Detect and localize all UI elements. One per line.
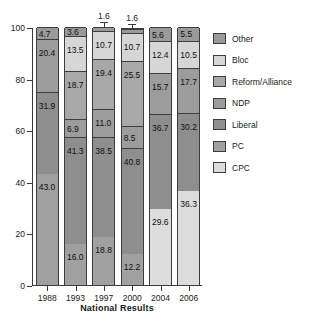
- x-axis-title: National Results: [32, 303, 202, 313]
- bar-segment-value-label: 18.7: [67, 81, 84, 90]
- bar-segment-2006-liberal: 30.2: [178, 113, 199, 191]
- y-axis-tick: [27, 131, 32, 132]
- bar-segment-1993-reform-alliance: 18.7: [65, 71, 86, 119]
- annotation-label-2000: 1.6: [126, 13, 138, 23]
- legend-label: Bloc: [232, 55, 249, 65]
- x-axis-tick-label: 2004: [151, 293, 170, 303]
- bar-segment-2004-bloc: 12.4: [150, 41, 171, 73]
- legend-item-bloc: Bloc: [213, 50, 307, 72]
- annotation-label-1997: 1.6: [98, 11, 110, 21]
- bar-segment-1997-liberal: 38.5: [93, 137, 114, 236]
- bar-segment-1993-pc: 16.0: [65, 244, 86, 285]
- bar-1993: 16.041.36.918.713.53.6: [64, 28, 87, 286]
- y-axis-tick: [27, 183, 32, 184]
- bar-segment-2004-cpc: 29.6: [150, 209, 171, 285]
- chart-legend: OtherBlocReform/AllianceNDPLiberalPCCPC: [213, 28, 307, 179]
- bar-segment-value-label: 16.0: [67, 253, 84, 262]
- bar-segment-value-label: 12.2: [124, 263, 141, 272]
- legend-item-ndp: NDP: [213, 93, 307, 115]
- y-axis-tick-label: 40: [16, 178, 25, 188]
- bar-segment-value-label: 25.5: [124, 71, 141, 80]
- bar-segment-2004-other: 5.6: [150, 27, 171, 41]
- bar-segment-2004-ndp: 15.7: [150, 73, 171, 114]
- bar-segment-value-label: 40.8: [124, 158, 141, 167]
- legend-label: Other: [232, 34, 253, 44]
- bar-segment-value-label: 43.0: [39, 183, 56, 192]
- legend-label: CPC: [232, 163, 250, 173]
- bar-segment-2000-other: [122, 29, 143, 33]
- bar-segment-2000-liberal: 40.8: [122, 148, 143, 253]
- x-axis-tick-label: 1997: [94, 293, 113, 303]
- bar-1997: 18.838.511.019.410.7: [92, 28, 115, 286]
- bar-segment-value-label: 12.4: [152, 51, 169, 60]
- bar-segment-value-label: 31.9: [39, 102, 56, 111]
- x-axis-tick: [161, 286, 162, 291]
- bar-segment-value-label: 41.3: [67, 147, 84, 156]
- bar-segment-value-label: 29.6: [152, 218, 169, 227]
- bar-segment-1997-other: [93, 27, 114, 31]
- x-axis-tick: [189, 286, 190, 291]
- bar-segment-2000-reform-alliance: 25.5: [122, 61, 143, 127]
- legend-item-other: Other: [213, 28, 307, 50]
- y-axis-tick: [27, 286, 32, 287]
- bar-segment-2000-ndp: 8.5: [122, 126, 143, 148]
- bar-segment-1993-ndp: 6.9: [65, 119, 86, 137]
- bar-segment-value-label: 38.5: [95, 147, 112, 156]
- bar-segment-1997-reform-alliance: 19.4: [93, 59, 114, 109]
- legend-item-cpc: CPC: [213, 157, 307, 179]
- bar-segment-value-label: 6.9: [67, 125, 79, 134]
- bar-segment-value-label: 3.6: [67, 28, 79, 37]
- legend-swatch-icon: [213, 76, 226, 87]
- bar-segment-2006-bloc: 10.5: [178, 41, 199, 68]
- x-axis-tick-label: 1993: [66, 293, 85, 303]
- y-axis-tick-label: 0: [20, 281, 25, 291]
- annotation-hook-2000: [128, 24, 136, 25]
- bar-segment-value-label: 5.6: [152, 30, 164, 39]
- legend-swatch-icon: [213, 119, 226, 130]
- bar-segment-value-label: 15.7: [152, 83, 169, 92]
- bar-2004: 29.636.715.712.45.6: [149, 28, 172, 286]
- bar-segment-1993-liberal: 41.3: [65, 137, 86, 244]
- legend-swatch-icon: [213, 162, 226, 173]
- bar-segment-value-label: 5.5: [180, 30, 192, 39]
- x-axis-tick: [104, 286, 105, 291]
- legend-label: Reform/Alliance: [232, 77, 292, 87]
- bar-segment-value-label: 18.8: [95, 246, 112, 255]
- x-axis-tick-label: 2006: [179, 293, 198, 303]
- bar-segment-value-label: 8.5: [124, 134, 136, 143]
- bar-2000: 12.240.88.525.510.7: [121, 28, 144, 286]
- bar-segment-2006-other: 5.5: [178, 27, 199, 41]
- legend-label: NDP: [232, 98, 250, 108]
- bar-segment-value-label: 30.2: [180, 123, 197, 132]
- bar-segment-value-label: 13.5: [67, 46, 84, 55]
- legend-swatch-icon: [213, 141, 226, 152]
- y-axis-tick: [27, 80, 32, 81]
- y-axis-tick-label: 60: [16, 126, 25, 136]
- bar-segment-2006-cpc: 36.3: [178, 191, 199, 285]
- bar-segment-value-label: 17.7: [180, 78, 197, 87]
- bar-segment-value-label: 20.4: [39, 49, 56, 58]
- bar-segment-1993-bloc: 13.5: [65, 36, 86, 71]
- x-axis-tick-label: 2000: [123, 293, 142, 303]
- bar-2006: 36.330.217.710.55.5: [177, 28, 200, 286]
- y-axis-tick-label: 100: [11, 23, 25, 33]
- bar-segment-value-label: 10.7: [95, 41, 112, 50]
- bar-segment-1988-pc: 43.0: [37, 174, 58, 285]
- bar-segment-1993-other: 3.6: [65, 27, 86, 36]
- x-axis-tick: [76, 286, 77, 291]
- bar-segment-value-label: 36.7: [152, 124, 169, 133]
- bar-1988: 43.031.920.44.7: [36, 28, 59, 286]
- legend-label: PC: [232, 141, 244, 151]
- x-axis-tick: [132, 286, 133, 291]
- bar-segment-value-label: 4.7: [39, 29, 51, 38]
- bar-segment-value-label: 11.0: [95, 119, 111, 128]
- y-axis-tick-label: 20: [16, 229, 25, 239]
- bar-segment-1997-pc: 18.8: [93, 237, 114, 286]
- bar-segment-value-label: 19.4: [95, 69, 112, 78]
- legend-swatch-icon: [213, 98, 226, 109]
- bar-segment-1997-ndp: 11.0: [93, 109, 114, 137]
- legend-swatch-icon: [213, 33, 226, 44]
- plot-area: 020406080100 198819931997200020042006 43…: [32, 28, 202, 286]
- bar-segment-1997-bloc: 10.7: [93, 31, 114, 59]
- y-axis-tick-label: 80: [16, 75, 25, 85]
